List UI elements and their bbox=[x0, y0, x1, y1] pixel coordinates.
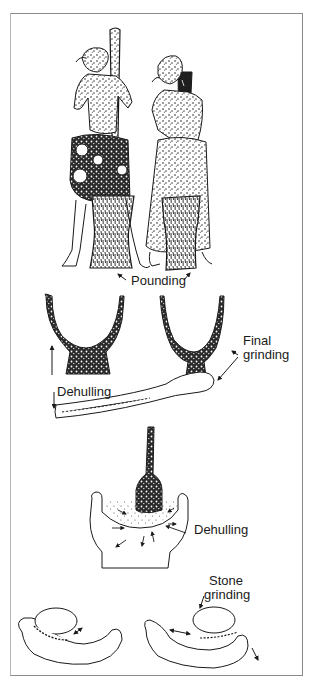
grain-processing-figure: Pounding Dehulling Final grinding Dehull… bbox=[0, 0, 311, 685]
mortar-cross-section-left bbox=[45, 294, 124, 374]
woman-right bbox=[146, 56, 212, 270]
label-pounding: Pounding bbox=[131, 274, 186, 288]
saddle-quern-right bbox=[145, 596, 258, 668]
saddle-quern-left bbox=[18, 608, 122, 664]
label-dehulling-mortar: Dehulling bbox=[194, 523, 248, 537]
label-final-grinding-2: grinding bbox=[243, 348, 289, 362]
label-dehulling-pestle: Dehulling bbox=[57, 385, 111, 399]
label-stone-grinding-2: grinding bbox=[204, 588, 250, 602]
mortar-dehulling-detail bbox=[90, 427, 188, 568]
label-stone-grinding-1: Stone bbox=[209, 574, 243, 588]
mortar-cross-section-right bbox=[160, 296, 224, 376]
label-final-grinding-1: Final bbox=[243, 334, 271, 348]
woman-left bbox=[62, 28, 150, 268]
